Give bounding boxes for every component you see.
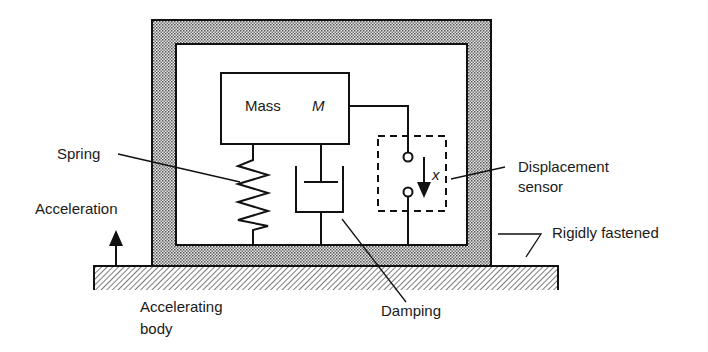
spring-label: Spring: [57, 145, 100, 162]
acceleration-arrow: [109, 230, 123, 266]
accelerating-body-label-line1: Accelerating: [140, 298, 223, 315]
displacement-symbol: x: [431, 166, 440, 183]
mass-block: Mass M: [221, 73, 349, 144]
displacement-sensor-label-line1: Displacement: [518, 158, 610, 175]
mass-label: Mass: [245, 97, 281, 114]
mass-symbol: M: [312, 97, 325, 114]
arrow-up-icon: [109, 230, 123, 246]
acceleration-label: Acceleration: [35, 200, 118, 217]
damping-label: Damping: [381, 302, 441, 319]
accelerometer-diagram: Mass M x Spring Acceleration Displaceme: [0, 0, 708, 352]
accelerating-body: [94, 266, 558, 290]
accelerating-body-label-line2: body: [140, 320, 173, 337]
displacement-sensor-label-line2: sensor: [518, 178, 563, 195]
rigidly-fastened-label: Rigidly fastened: [552, 224, 659, 241]
